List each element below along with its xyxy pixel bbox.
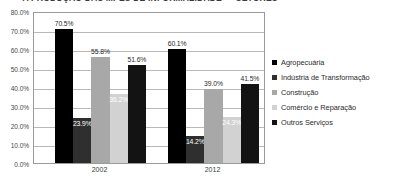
legend-label: Comércio e Reparação — [281, 103, 356, 112]
bar-value-label: 41.5% — [241, 75, 260, 82]
chart-title: A PRODUÇÃO DAS MPES DE INFORMALIDADE — S… — [0, 0, 300, 3]
bar[interactable] — [91, 57, 109, 163]
bar-value-label: 51.6% — [128, 56, 147, 63]
y-axis-tick-label: 30.0% — [11, 104, 29, 111]
bar-value-label: 39.0% — [204, 80, 223, 87]
legend-item[interactable]: Outros Serviços — [272, 115, 392, 130]
bar-value-label: 36.2% — [109, 96, 128, 103]
bar-value-label: 70.5% — [55, 20, 74, 27]
bar[interactable] — [204, 89, 222, 163]
bar-value-label: 24.3% — [222, 119, 241, 126]
legend-label: Indústria de Transformação — [281, 73, 370, 82]
legend-swatch-icon — [272, 105, 277, 110]
legend-item[interactable]: Construção — [272, 85, 392, 100]
x-axis-tick-label: 2002 — [92, 166, 108, 173]
y-axis-tick-label: 60.0% — [11, 47, 29, 54]
bar-value-label: 23.9% — [73, 120, 92, 127]
bar-group: 60.1%14.2%39.0%24.3%41.5% — [168, 13, 259, 163]
legend-item[interactable]: Agropecuária — [272, 55, 392, 70]
bar-value-label: 14.2% — [186, 138, 205, 145]
bar-group: 70.5%23.9%55.8%36.2%51.6% — [55, 13, 146, 163]
y-axis-tick-label: 40.0% — [11, 85, 29, 92]
legend-label: Outros Serviços — [281, 118, 333, 127]
legend-swatch-icon — [272, 75, 277, 80]
legend-item[interactable]: Comércio e Reparação — [272, 100, 392, 115]
bar[interactable] — [241, 84, 259, 163]
bar[interactable] — [55, 29, 73, 163]
bar-value-label: 55.8% — [91, 48, 110, 55]
legend-item[interactable]: Indústria de Transformação — [272, 70, 392, 85]
legend-swatch-icon — [272, 60, 277, 65]
x-axis: 20022012 — [33, 166, 265, 182]
bar-value-label: 60.1% — [168, 40, 187, 47]
bar[interactable] — [110, 94, 128, 163]
bars-layer: 70.5%23.9%55.8%36.2%51.6%60.1%14.2%39.0%… — [34, 13, 264, 163]
y-axis-tick-label: 10.0% — [11, 142, 29, 149]
y-axis-tick-label: 20.0% — [11, 123, 29, 130]
chart-legend: AgropecuáriaIndústria de TransformaçãoCo… — [272, 55, 392, 130]
plot-area: 70.5%23.9%55.8%36.2%51.6%60.1%14.2%39.0%… — [33, 12, 265, 164]
bar[interactable] — [128, 65, 146, 163]
y-axis-tick-label: 80.0% — [11, 9, 29, 16]
legend-label: Construção — [281, 88, 318, 97]
x-axis-tick-label: 2012 — [205, 166, 221, 173]
y-axis-tick-label: 0.0% — [14, 161, 29, 168]
legend-swatch-icon — [272, 120, 277, 125]
y-axis-tick-label: 70.0% — [11, 28, 29, 35]
bar[interactable] — [168, 49, 186, 163]
legend-swatch-icon — [272, 90, 277, 95]
bar-chart: A PRODUÇÃO DAS MPES DE INFORMALIDADE — S… — [0, 0, 394, 190]
y-axis: 0.0%10.0%20.0%30.0%40.0%50.0%60.0%70.0%8… — [0, 12, 31, 164]
legend-label: Agropecuária — [281, 58, 324, 67]
y-axis-tick-label: 50.0% — [11, 66, 29, 73]
